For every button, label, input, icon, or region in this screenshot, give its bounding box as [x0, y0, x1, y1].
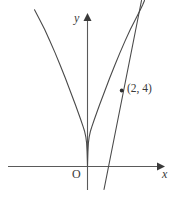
- point-coordinate-label: (2, 4): [127, 83, 152, 95]
- origin-label: O: [72, 168, 81, 180]
- tangent-point-marker: [120, 89, 124, 93]
- y-axis-arrow-icon: [84, 13, 92, 21]
- graph-figure: y x O (2, 4): [0, 0, 175, 198]
- x-axis-label: x: [162, 168, 167, 180]
- graph-canvas: [0, 0, 175, 198]
- y-axis-label: y: [74, 12, 79, 24]
- tangent-line: [104, 1, 142, 190]
